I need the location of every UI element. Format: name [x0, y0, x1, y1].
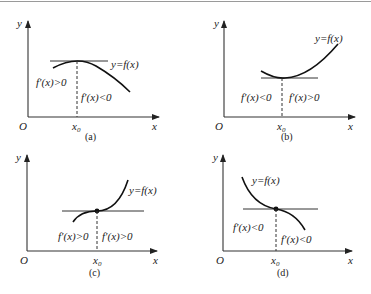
right-derivative-label: f′(x)<0 [81, 91, 112, 104]
panel-caption: (b) [281, 131, 293, 143]
panel-caption: (d) [277, 267, 289, 279]
curve-increasing-inflection [73, 180, 128, 222]
panel-a: y O x x0 y=f(x) f′(x)>0 f′(x)<0 (a) [16, 17, 159, 143]
curve-label: y=f(x) [251, 174, 280, 187]
panel-caption: (a) [85, 131, 96, 143]
y-axis-label: y [212, 151, 218, 163]
panel-c: y O x x0 y=f(x) f′(x)>0 f′(x)>0 (c) [15, 151, 158, 279]
x-axis-label: x [347, 120, 353, 132]
x-axis-label: x [151, 120, 157, 132]
right-derivative-label: f′(x)<0 [281, 233, 312, 246]
left-derivative-label: f′(x)<0 [233, 221, 264, 234]
left-derivative-label: f′(x)>0 [58, 230, 89, 243]
curve-label: y=f(x) [110, 58, 139, 71]
y-axis-label: y [213, 17, 219, 29]
x0-label: x0 [71, 120, 81, 134]
left-derivative-label: f′(x)>0 [36, 76, 67, 89]
panel-d: y O x x0 y=f(x) f′(x)<0 f′(x)<0 (d) [212, 151, 353, 279]
y-axis-label: y [16, 17, 22, 29]
right-derivative-label: f′(x)>0 [289, 91, 320, 104]
x-axis-label: x [152, 254, 158, 266]
curve-local-min [261, 44, 338, 78]
curve-label: y=f(x) [314, 32, 343, 45]
left-derivative-label: f′(x)<0 [241, 91, 272, 104]
panel-caption: (c) [89, 267, 100, 279]
right-derivative-label: f′(x)>0 [102, 230, 133, 243]
panel-b: y O x x0 y=f(x) f′(x)<0 f′(x)>0 (b) [213, 17, 355, 143]
x0-label: x0 [270, 254, 280, 268]
derivative-sign-diagram: y O x x0 y=f(x) f′(x)>0 f′(x)<0 (a) y O … [0, 0, 371, 294]
y-axis-label: y [15, 151, 21, 163]
origin-label: O [20, 254, 28, 266]
x-axis-label: x [347, 254, 353, 266]
origin-label: O [19, 120, 27, 132]
curve-label: y=f(x) [128, 184, 157, 197]
origin-label: O [216, 254, 224, 266]
x0-label: x0 [92, 254, 102, 268]
origin-label: O [215, 120, 223, 132]
